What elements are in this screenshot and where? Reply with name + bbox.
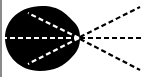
- ray-diagram: [2, 0, 142, 77]
- outer-rays: [80, 7, 142, 70]
- diagram-canvas: [0, 0, 142, 77]
